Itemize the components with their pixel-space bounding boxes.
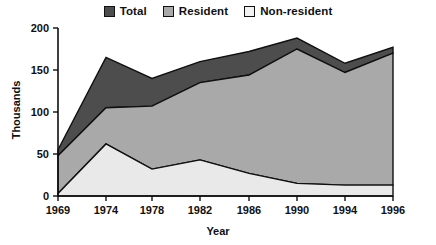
x-tick-label: 1978 — [140, 204, 164, 216]
x-tick-label: 1990 — [285, 204, 309, 216]
x-tick-label: 1982 — [188, 204, 212, 216]
y-tick-label: 150 — [31, 64, 49, 76]
x-tick-label: 1974 — [94, 204, 119, 216]
series-areas — [58, 38, 393, 196]
y-tick-label: 0 — [43, 190, 49, 202]
y-axis-title-wrap: Thousands — [2, 22, 18, 198]
y-axis-title: Thousands — [10, 50, 22, 170]
plot-area: 0501001502001969197419781982198619901994… — [0, 0, 436, 245]
legend-label-total: Total — [120, 5, 147, 17]
legend-item-non-resident: Non-resident — [244, 5, 332, 17]
y-tick-label: 200 — [31, 22, 49, 34]
legend-item-resident: Resident — [163, 5, 228, 17]
area-chart: Total Resident Non-resident Thousands 05… — [0, 0, 436, 245]
chart-legend: Total Resident Non-resident — [0, 2, 436, 20]
x-tick-label: 1994 — [333, 204, 358, 216]
legend-swatch-non-resident-icon — [244, 6, 255, 17]
y-tick-label: 50 — [37, 148, 49, 160]
x-tick-label: 1986 — [237, 204, 261, 216]
legend-swatch-total-icon — [104, 6, 115, 17]
x-tick-label: 1969 — [46, 204, 70, 216]
legend-item-total: Total — [104, 5, 147, 17]
legend-label-resident: Resident — [179, 5, 228, 17]
x-axis-title: Year — [0, 225, 436, 237]
y-tick-label: 100 — [31, 106, 49, 118]
legend-swatch-resident-icon — [163, 6, 174, 17]
legend-label-non-resident: Non-resident — [260, 5, 332, 17]
x-tick-label: 1996 — [381, 204, 405, 216]
